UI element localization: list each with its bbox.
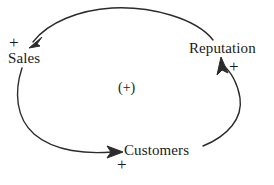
link-sales-to-customers-path bbox=[18, 68, 112, 153]
loop-polarity-label: (+) bbox=[118, 81, 135, 95]
link-reputation-to-sales-path bbox=[33, 8, 213, 42]
polarity-plus-reputation: + bbox=[229, 58, 239, 75]
node-label-reputation: Reputation bbox=[189, 41, 256, 56]
link-customers-to-reputation-path bbox=[203, 66, 240, 146]
node-label-customers: Customers bbox=[124, 143, 189, 158]
node-label-sales: Sales bbox=[8, 51, 40, 66]
link-customers-to-reputation-arrowhead bbox=[217, 57, 228, 75]
polarity-plus-customers: + bbox=[117, 156, 127, 173]
causal-loop-diagram-canvas: Sales Reputation Customers + + + (+) bbox=[0, 0, 274, 185]
link-reputation-to-sales bbox=[29, 8, 213, 48]
link-sales-to-customers bbox=[18, 68, 123, 158]
polarity-plus-sales: + bbox=[9, 34, 19, 51]
